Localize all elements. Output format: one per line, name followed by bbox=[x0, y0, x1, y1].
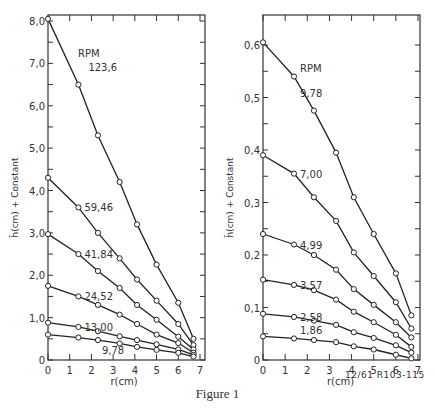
series-label: 2,58 bbox=[300, 312, 322, 323]
y-tick-label: 7,0 bbox=[29, 58, 45, 69]
data-point bbox=[95, 302, 100, 307]
x-tick-label: 0 bbox=[260, 365, 266, 376]
data-point bbox=[409, 335, 414, 340]
x-tick-label: 1 bbox=[67, 365, 73, 376]
y-tick-label: 4,0 bbox=[29, 186, 45, 197]
data-point bbox=[154, 342, 159, 347]
x-tick-label: 0 bbox=[45, 365, 51, 376]
y-axis-label: h̄(cm) + Constant bbox=[9, 157, 20, 238]
y-tick-label: 0,4 bbox=[244, 145, 260, 156]
data-point bbox=[76, 82, 81, 87]
data-point bbox=[409, 344, 414, 349]
data-point bbox=[351, 250, 356, 255]
data-point bbox=[154, 332, 159, 337]
x-tick-label: 6 bbox=[175, 365, 181, 376]
data-point bbox=[176, 340, 181, 345]
data-point bbox=[409, 350, 414, 355]
x-tick-label: 2 bbox=[304, 365, 310, 376]
data-point bbox=[371, 347, 376, 352]
y-tick-label: 6,0 bbox=[29, 101, 45, 112]
y-tick-label: 5,0 bbox=[29, 143, 45, 154]
figure-caption: Figure 1 bbox=[0, 386, 435, 402]
data-point bbox=[154, 317, 159, 322]
data-point bbox=[45, 320, 50, 325]
data-point bbox=[351, 287, 356, 292]
data-point bbox=[45, 332, 50, 337]
data-point bbox=[176, 321, 181, 326]
y-tick-label: 0,6 bbox=[244, 40, 260, 51]
data-point bbox=[291, 171, 296, 176]
data-point bbox=[95, 268, 100, 273]
data-point bbox=[117, 334, 122, 339]
data-point bbox=[291, 242, 296, 247]
figure-charts: 0123456701,02,03,04,05,06,07,08,0r(cm)h̄… bbox=[0, 0, 435, 410]
data-point bbox=[291, 336, 296, 341]
y-tick-label: 0 bbox=[254, 355, 260, 366]
data-point bbox=[76, 335, 81, 340]
data-point bbox=[333, 218, 338, 223]
series-label: 3,57 bbox=[300, 280, 322, 291]
data-point bbox=[351, 195, 356, 200]
x-tick-label: 2 bbox=[88, 365, 94, 376]
data-point bbox=[176, 334, 181, 339]
y-tick-label: 0,2 bbox=[244, 250, 260, 261]
series-label: 123,6 bbox=[88, 62, 117, 73]
data-point bbox=[351, 330, 356, 335]
series-label: 9,78 bbox=[300, 88, 322, 99]
data-point bbox=[134, 344, 139, 349]
data-point bbox=[260, 311, 265, 316]
data-point bbox=[45, 16, 50, 21]
data-point bbox=[260, 277, 265, 282]
data-point bbox=[333, 297, 338, 302]
data-point bbox=[176, 300, 181, 305]
data-point bbox=[176, 350, 181, 355]
data-point bbox=[95, 230, 100, 235]
data-point bbox=[76, 251, 81, 256]
data-point bbox=[333, 150, 338, 155]
data-point bbox=[291, 74, 296, 79]
right-chart: 0123456700,10,20,30,40,50,6r(cm)h̄(cm) +… bbox=[224, 15, 421, 387]
x-tick-label: 3 bbox=[110, 365, 116, 376]
plot-frame bbox=[263, 15, 420, 360]
y-tick-label: 0 bbox=[39, 355, 45, 366]
series-label: 4,99 bbox=[300, 240, 322, 251]
y-tick-label: 0,1 bbox=[244, 303, 260, 314]
data-point bbox=[134, 321, 139, 326]
data-point bbox=[154, 298, 159, 303]
data-point bbox=[260, 40, 265, 45]
data-point bbox=[393, 332, 398, 337]
series-label: 59,46 bbox=[84, 202, 113, 213]
data-point bbox=[409, 313, 414, 318]
y-tick-label: 8,0 bbox=[29, 16, 45, 27]
data-point bbox=[333, 322, 338, 327]
data-point bbox=[76, 294, 81, 299]
data-point bbox=[117, 179, 122, 184]
y-tick-label: 0,3 bbox=[244, 198, 260, 209]
data-point bbox=[134, 277, 139, 282]
data-point bbox=[76, 205, 81, 210]
data-point bbox=[95, 133, 100, 138]
series-label: 41,84 bbox=[84, 249, 113, 260]
data-point bbox=[45, 232, 50, 237]
series-label: 24,52 bbox=[84, 291, 113, 302]
data-point bbox=[393, 320, 398, 325]
plot-frame bbox=[48, 15, 205, 360]
figure-code: 12/61 R103-115 bbox=[345, 370, 425, 380]
rpm-legend-title: RPM bbox=[300, 63, 322, 74]
data-point bbox=[191, 336, 196, 341]
data-point bbox=[117, 285, 122, 290]
data-point bbox=[260, 231, 265, 236]
data-point bbox=[260, 334, 265, 339]
data-point bbox=[393, 271, 398, 276]
data-point bbox=[311, 195, 316, 200]
y-axis-label: h̄(cm) + Constant bbox=[224, 157, 235, 238]
data-point bbox=[95, 337, 100, 342]
series-rpm-3-57: 3,57 bbox=[260, 277, 414, 349]
series-label: 1,86 bbox=[300, 325, 322, 336]
data-point bbox=[311, 252, 316, 257]
data-point bbox=[393, 343, 398, 348]
x-tick-label: 3 bbox=[326, 365, 332, 376]
data-point bbox=[371, 320, 376, 325]
data-point bbox=[45, 175, 50, 180]
y-tick-label: 3,0 bbox=[29, 228, 45, 239]
